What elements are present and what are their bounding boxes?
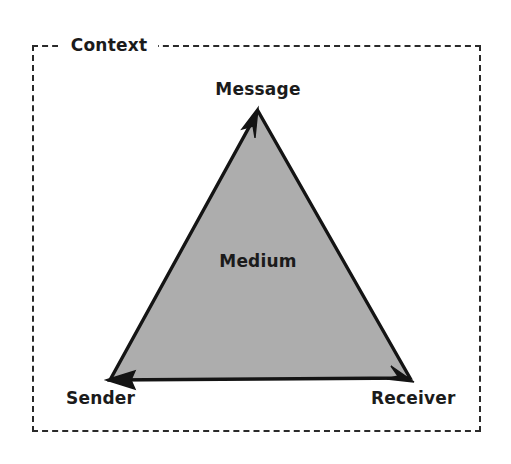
vertex-label-sender: Sender bbox=[66, 388, 135, 408]
vertex-label-message: Message bbox=[198, 79, 318, 99]
interior-label-medium: Medium bbox=[198, 251, 318, 271]
medium-triangle bbox=[110, 111, 410, 380]
communication-model-diagram: Context Message Medium Sender Receiver bbox=[0, 0, 511, 464]
vertex-label-receiver: Receiver bbox=[371, 388, 456, 408]
